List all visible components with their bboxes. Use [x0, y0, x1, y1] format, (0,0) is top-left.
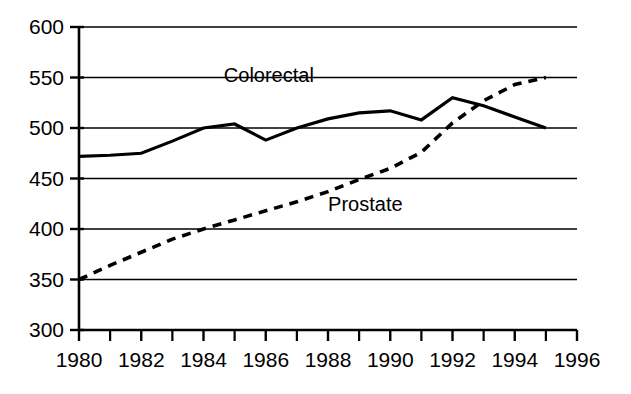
y-tick-label-500: 500 — [29, 116, 64, 139]
y-tick-label-600: 600 — [29, 15, 64, 38]
series-label-colorectal: Colorectal — [224, 64, 314, 86]
y-tick-label-550: 550 — [29, 66, 64, 89]
y-axis-ticks — [70, 27, 84, 330]
series-annotations-group: ColorectalProstate — [224, 64, 403, 215]
series-label-prostate: Prostate — [328, 193, 402, 215]
gridlines — [79, 27, 577, 280]
y-axis-tick-labels: 300350400450500550600 — [29, 15, 64, 341]
x-tick-label-1980: 1980 — [56, 348, 103, 371]
line-chart: 300350400450500550600 198019821984198619… — [0, 0, 631, 394]
y-tick-label-450: 450 — [29, 167, 64, 190]
x-axis-ticks — [79, 330, 577, 341]
x-axis-tick-labels: 198019821984198619881990199219941996 — [56, 348, 601, 371]
y-tick-label-400: 400 — [29, 217, 64, 240]
x-tick-label-1982: 1982 — [118, 348, 165, 371]
x-tick-label-1992: 1992 — [429, 348, 476, 371]
x-tick-label-1996: 1996 — [554, 348, 601, 371]
x-tick-label-1994: 1994 — [491, 348, 538, 371]
x-tick-label-1984: 1984 — [180, 348, 227, 371]
x-tick-label-1986: 1986 — [242, 348, 289, 371]
x-tick-label-1990: 1990 — [367, 348, 414, 371]
y-tick-label-300: 300 — [29, 318, 64, 341]
x-tick-label-1988: 1988 — [305, 348, 352, 371]
chart-canvas: 300350400450500550600 198019821984198619… — [0, 0, 631, 394]
y-tick-label-350: 350 — [29, 268, 64, 291]
